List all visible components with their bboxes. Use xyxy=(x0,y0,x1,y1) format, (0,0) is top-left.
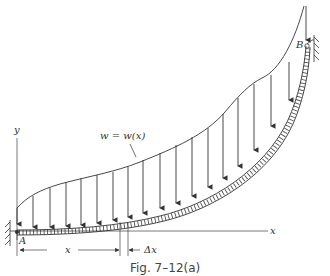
support-b-label: B xyxy=(296,40,303,50)
dimension-dx-label: Δx xyxy=(144,245,157,255)
figure-caption: Fig. 7–12(a) xyxy=(130,262,200,274)
figure: y x A B w = w(x) x Δx Fig. 7–12(a) xyxy=(0,0,330,276)
dimension-lines xyxy=(17,222,140,256)
load-arrows xyxy=(17,6,306,227)
dimension-x-label: x xyxy=(65,245,71,255)
load-curve xyxy=(17,6,304,208)
y-axis-label: y xyxy=(14,125,20,135)
load-label: w = w(x) xyxy=(100,131,145,141)
axes xyxy=(17,138,268,240)
beam xyxy=(17,46,310,235)
beam-diagram xyxy=(0,0,330,276)
x-axis-label: x xyxy=(270,226,276,236)
support-a-label: A xyxy=(19,236,26,246)
load-label-leader xyxy=(130,144,136,157)
